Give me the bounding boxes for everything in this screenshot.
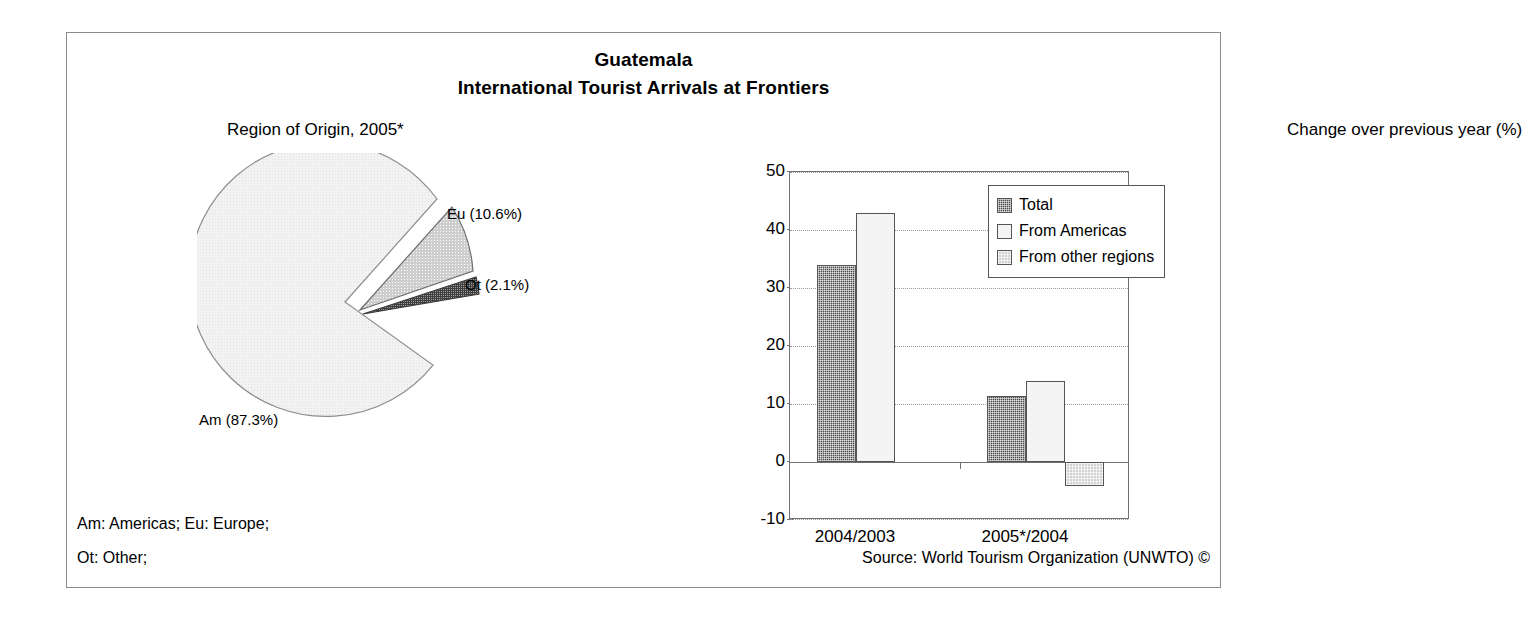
- bar-americas-2005: [1026, 381, 1065, 462]
- legend-swatch-total-icon: [997, 198, 1012, 213]
- legend-item-americas: From Americas: [997, 218, 1154, 244]
- y-tick-label: 50: [741, 161, 785, 181]
- legend-label-total: Total: [1019, 196, 1053, 214]
- legend-swatch-americas-icon: [997, 224, 1012, 239]
- bar-americas-2004: [856, 213, 895, 462]
- legend-item-total: Total: [997, 192, 1154, 218]
- chart-figure: Guatemala International Tourist Arrivals…: [66, 32, 1221, 588]
- legend-swatch-other-regions-icon: [997, 250, 1012, 265]
- bar-other-regions-2005: [1065, 462, 1104, 486]
- abbreviation-note-1: Am: Americas; Eu: Europe;: [77, 515, 269, 533]
- x-tick-label-2005: 2005*/2004: [982, 527, 1069, 547]
- x-tick-mark: [960, 462, 961, 469]
- y-tick-label: -10: [741, 509, 785, 529]
- bar-chart-panel: Change over previous year (%) 50 40 30 2…: [667, 33, 1222, 589]
- legend-label-other-regions: From other regions: [1019, 248, 1154, 266]
- x-tick-label-2004: 2004/2003: [815, 527, 895, 547]
- gridline: [790, 519, 1128, 520]
- legend-item-other-regions: From other regions: [997, 244, 1154, 270]
- bar-chart-legend: Total From Americas From other regions: [988, 185, 1165, 278]
- gridline: [790, 172, 1128, 173]
- bar-chart-title: Change over previous year (%): [1287, 120, 1522, 140]
- y-tick-label: 30: [741, 277, 785, 297]
- bar-total-2004: [817, 265, 856, 462]
- abbreviation-note-2: Ot: Other;: [77, 549, 147, 567]
- legend-label-americas: From Americas: [1019, 222, 1127, 240]
- y-tick-label: 40: [741, 219, 785, 239]
- pie-label-am: Am (87.3%): [199, 411, 278, 428]
- y-tick-label: 20: [741, 335, 785, 355]
- bar-total-2005: [987, 396, 1026, 462]
- pie-chart-title: Region of Origin, 2005*: [227, 120, 404, 140]
- pie-label-eu: Eu (10.6%): [447, 205, 522, 222]
- y-tick-label: 0: [741, 451, 785, 471]
- pie-chart-panel: Region of Origin, 2005*: [67, 33, 667, 589]
- y-axis: 50 40 30 20 10 0 -10: [737, 171, 785, 519]
- pie-label-ot: Ot (2.1%): [465, 276, 529, 293]
- y-tick-label: 10: [741, 393, 785, 413]
- source-note: Source: World Tourism Organization (UNWT…: [862, 549, 1210, 567]
